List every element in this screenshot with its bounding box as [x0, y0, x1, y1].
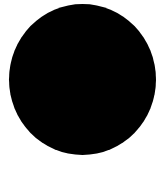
black-circle-shape [9, 4, 156, 155]
